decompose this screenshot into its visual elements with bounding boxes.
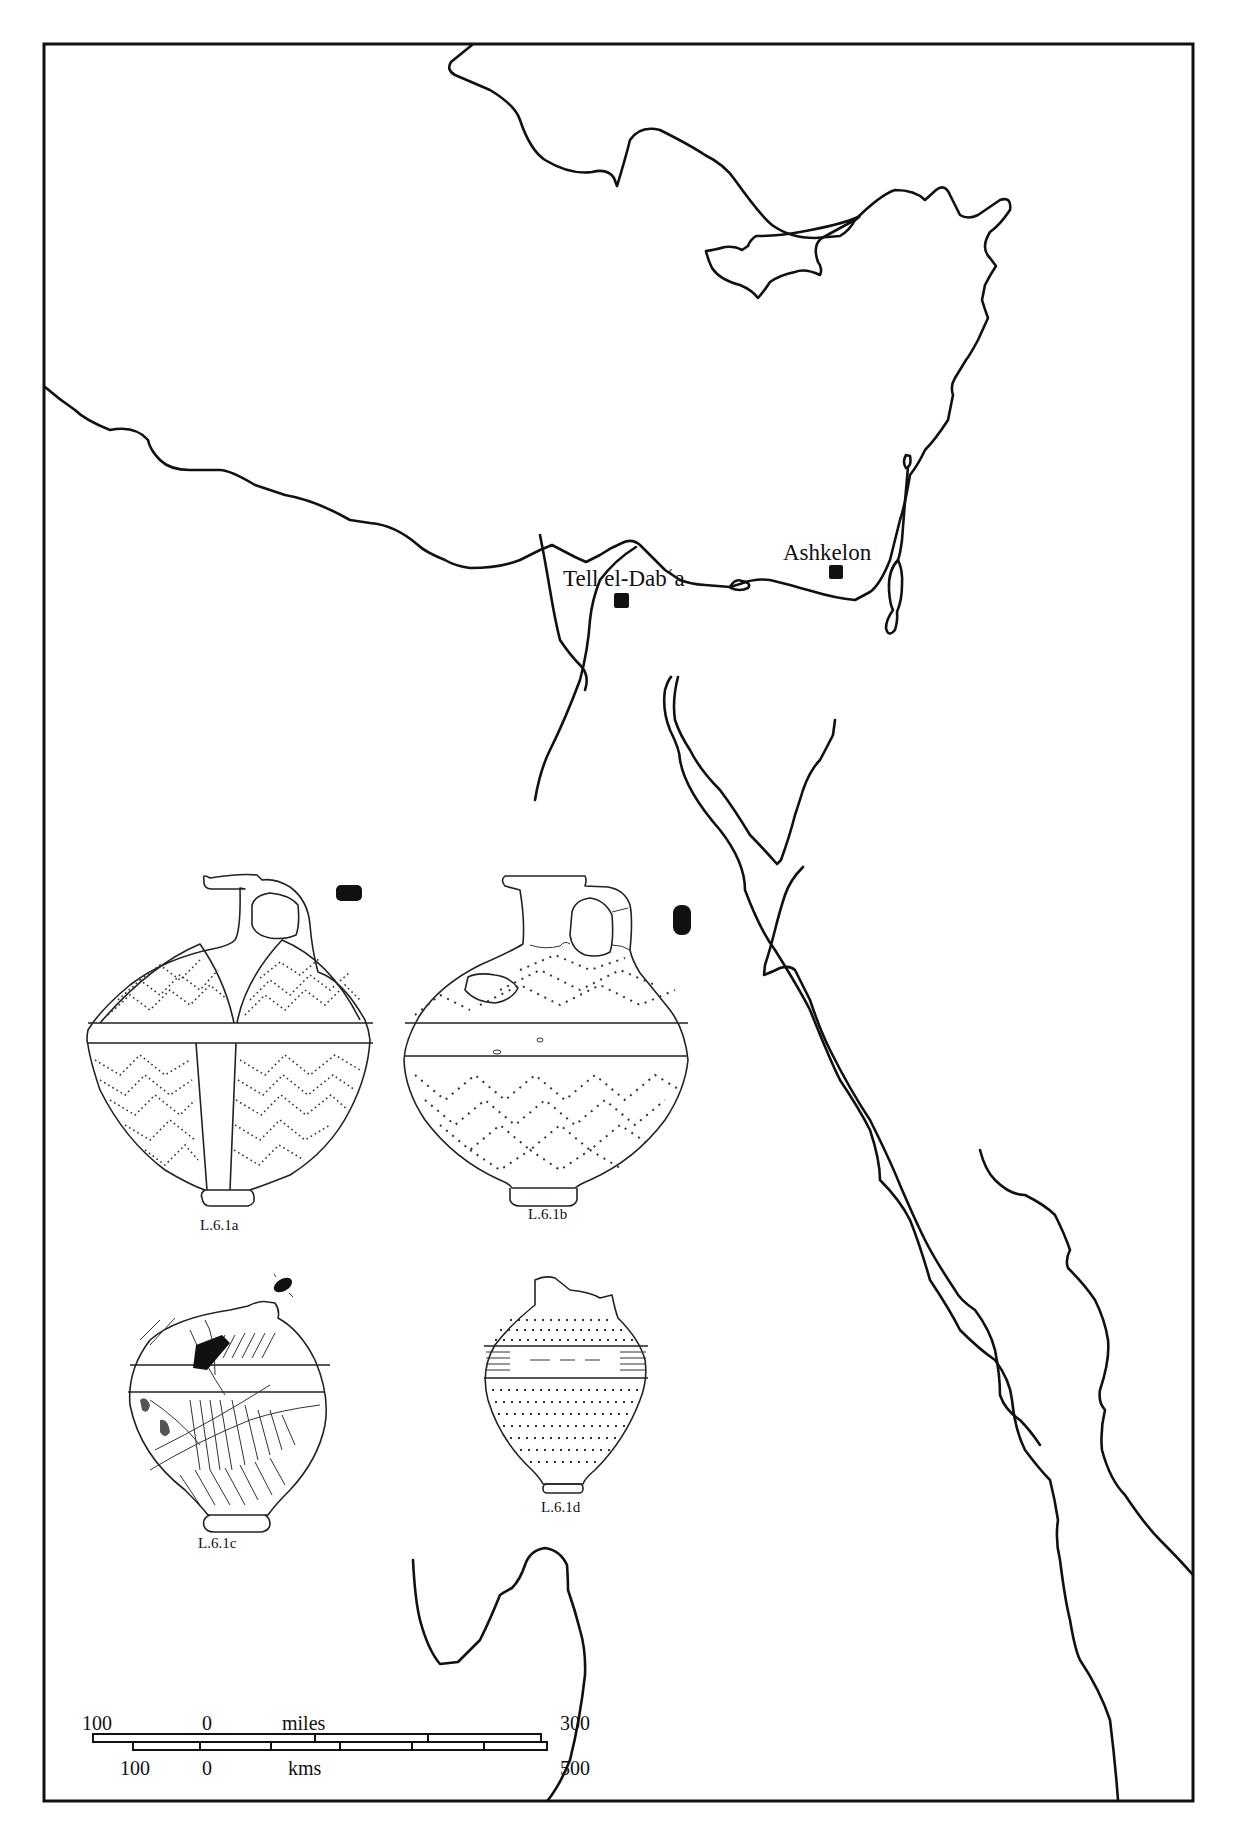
jordan-river [898,455,911,560]
vessel-caption-l61c: L.6.1c [198,1535,237,1551]
map-figure: Tell el-Dabʿa Ashkelon [0,0,1234,1841]
vessel-l61d-drawing [484,1277,648,1493]
sinai-east-coast [764,867,1040,1445]
scale-kms-left: 100 [120,1757,150,1779]
site-marker-icon [614,593,629,608]
site-tell-el-daba: Tell el-Dabʿa [563,566,685,608]
site-label: Ashkelon [783,540,872,565]
site-marker-icon [829,565,843,579]
section-marker-icon [673,905,691,935]
scale-kms-right: 500 [560,1757,590,1779]
section-marker-icon [336,885,362,901]
anatolia-levant-coastline [449,45,1010,600]
vessel-l61b-drawing [404,876,691,1206]
scale-kms-unit: kms [288,1757,322,1779]
dead-sea [886,560,902,634]
scale-miles-zero: 0 [202,1712,212,1734]
cyprus-island [706,216,859,298]
scale-miles-right: 300 [560,1712,590,1734]
vessel-caption-l61d: L.6.1d [541,1499,581,1515]
vessel-caption-l61b: L.6.1b [528,1206,567,1222]
site-ashkelon: Ashkelon [783,540,872,579]
scale-miles-unit: miles [282,1712,326,1734]
scale-bar: 100 0 miles 300 100 0 kms 500 [82,1712,590,1779]
scale-kms-zero: 0 [202,1757,212,1779]
vessel-caption-l61a: L.6.1a [200,1217,239,1233]
egypt-north-coastline [45,387,730,587]
vessel-l61c-drawing [128,1274,330,1532]
site-label: Tell el-Dabʿa [563,566,685,591]
vessel-l61a-drawing [87,874,373,1206]
gulf-of-suez [674,677,835,864]
red-sea-west-coast [664,677,1118,1800]
section-marker-icon [271,1275,294,1295]
red-sea-east-coast [980,1150,1193,1575]
scale-miles-left: 100 [82,1712,112,1734]
